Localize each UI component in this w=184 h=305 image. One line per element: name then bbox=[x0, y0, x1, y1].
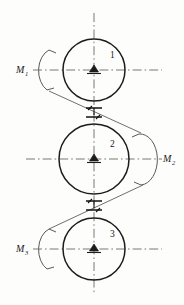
gear-train-figure: 1 2 3 M 1 M 2 M 3 bbox=[0, 0, 184, 305]
moment-2-label-base: M bbox=[162, 153, 172, 164]
gear-3-number-label: 3 bbox=[110, 229, 115, 239]
gear-1-center-bearing-icon bbox=[87, 65, 101, 74]
moment-2-arrow-icon bbox=[132, 134, 157, 185]
gear-3-center-bearing-icon bbox=[87, 244, 101, 253]
pressure-line-upper bbox=[49, 91, 141, 133]
pressure-line-lower bbox=[49, 185, 143, 229]
moment-1-label: M 1 bbox=[15, 64, 28, 77]
moment-2-label: M 2 bbox=[162, 153, 176, 166]
moment-1-label-subscript: 1 bbox=[25, 70, 28, 77]
gear-train-diagram: 1 2 3 M 1 M 2 M 3 bbox=[0, 0, 184, 305]
moment-3-label-base: M bbox=[15, 243, 25, 254]
mesh-symbol-1-2 bbox=[86, 106, 102, 119]
moment-1-label-base: M bbox=[15, 64, 25, 75]
gear-2-center-bearing-icon bbox=[87, 154, 101, 163]
moment-3-label-subscript: 3 bbox=[24, 249, 29, 256]
gear-1-number-label: 1 bbox=[110, 50, 115, 60]
moment-3-label: M 3 bbox=[15, 243, 29, 256]
moment-2-label-subscript: 2 bbox=[172, 159, 176, 166]
gear-2-number-label: 2 bbox=[110, 139, 115, 149]
